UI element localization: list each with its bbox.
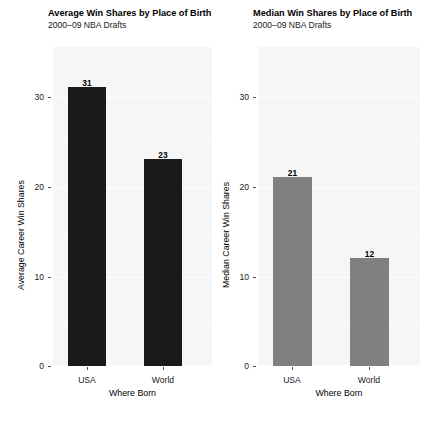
x-tick-mark-usa — [292, 367, 293, 370]
bar-world — [350, 258, 389, 366]
y-tick-label-20: 20 — [223, 182, 249, 192]
y-tick-label-20: 20 — [18, 182, 44, 192]
gridline-minor-25 — [258, 142, 420, 143]
x-tick-mark-world — [163, 367, 164, 370]
bar-usa — [273, 177, 312, 366]
y-tick-label-10: 10 — [223, 272, 249, 282]
y-tick-mark-30 — [253, 97, 256, 98]
gridline-30 — [258, 97, 420, 98]
x-tick-label-world: World — [139, 375, 187, 385]
bar-value-usa: 31 — [68, 78, 106, 88]
chart-figure: Average Win Shares by Place of Birth 200… — [0, 0, 427, 424]
panel-title: Average Win Shares by Place of Birth — [48, 8, 211, 18]
panel-subtitle: 2000–09 NBA Drafts — [253, 20, 331, 30]
bar-usa — [68, 87, 106, 366]
plot-area — [53, 47, 212, 366]
y-tick-label-0: 0 — [18, 361, 44, 371]
bar-value-world: 12 — [350, 249, 389, 259]
bar-value-world: 23 — [144, 150, 182, 160]
x-axis-label: Where Born — [53, 388, 212, 398]
x-tick-label-usa: USA — [63, 375, 111, 385]
x-axis-label: Where Born — [258, 388, 420, 398]
y-tick-label-30: 30 — [223, 92, 249, 102]
y-tick-mark-10 — [48, 277, 51, 278]
y-tick-mark-0 — [48, 366, 51, 367]
y-tick-mark-30 — [48, 97, 51, 98]
y-tick-mark-20 — [48, 187, 51, 188]
y-tick-mark-20 — [253, 187, 256, 188]
panel-median-win-shares: Median Win Shares by Place of Birth 2000… — [205, 0, 418, 424]
x-tick-label-world: World — [345, 375, 393, 385]
panel-subtitle: 2000–09 NBA Drafts — [48, 20, 126, 30]
y-tick-mark-10 — [253, 277, 256, 278]
x-tick-label-usa: USA — [268, 375, 316, 385]
y-tick-label-0: 0 — [223, 361, 249, 371]
plot-area — [258, 47, 420, 366]
x-tick-mark-world — [369, 367, 370, 370]
y-tick-mark-0 — [253, 366, 256, 367]
panel-average-win-shares: Average Win Shares by Place of Birth 200… — [0, 0, 213, 424]
panel-title: Median Win Shares by Place of Birth — [253, 8, 412, 18]
y-tick-label-30: 30 — [18, 92, 44, 102]
y-tick-label-10: 10 — [18, 272, 44, 282]
x-tick-mark-usa — [87, 367, 88, 370]
bar-world — [144, 159, 182, 366]
bar-value-usa: 21 — [273, 168, 312, 178]
